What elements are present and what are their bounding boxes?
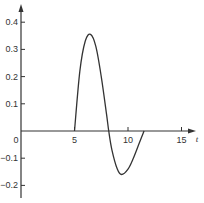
x-tick-label: 15 — [176, 135, 186, 145]
x-axis-arrow-icon — [188, 129, 196, 134]
origin-label: 0 — [13, 135, 18, 145]
axes — [19, 4, 197, 198]
y-tick-label: 0.2 — [5, 72, 18, 82]
x-axis-label: t — [196, 134, 199, 144]
y-axis-arrow-icon — [19, 4, 24, 12]
y-tick-label: 0.1 — [5, 99, 18, 109]
chart: 510150t0.40.30.20.1−0.1−0.2 — [0, 0, 204, 203]
y-tick-label: 0.3 — [5, 44, 18, 54]
x-tick-label: 10 — [123, 135, 133, 145]
data-curve — [75, 34, 145, 174]
y-tick-label: 0.4 — [5, 17, 18, 27]
y-tick-label: −0.1 — [0, 153, 18, 163]
x-tick-label: 5 — [72, 135, 77, 145]
ticks: 510150t0.40.30.20.1−0.1−0.2 — [0, 17, 199, 190]
y-tick-label: −0.2 — [0, 180, 18, 190]
